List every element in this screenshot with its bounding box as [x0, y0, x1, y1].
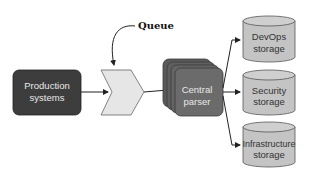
production-label-line1: Production — [24, 80, 69, 91]
infra-label-line1: Infrastructure — [242, 139, 295, 149]
edge-parser-devops — [223, 40, 240, 88]
devops-storage-node: DevOps storage — [243, 16, 295, 62]
production-systems-node: Production systems — [13, 70, 81, 115]
production-label-line2: systems — [30, 92, 65, 103]
devops-label-line1: DevOps — [252, 31, 287, 42]
infra-label-line2: storage — [253, 149, 285, 160]
architecture-diagram: Production systems Queue Central parser … — [0, 0, 311, 176]
edge-parser-infra — [223, 96, 240, 145]
security-storage-node: Security storage — [243, 70, 295, 115]
security-label-line1: Security — [252, 85, 287, 96]
queue-callout-arrow — [112, 26, 135, 65]
security-label-line2: storage — [253, 96, 285, 107]
parser-label-line2: parser — [184, 96, 211, 107]
queue-label: Queue — [138, 20, 174, 31]
parser-label-line1: Central — [182, 84, 213, 95]
devops-label-line2: storage — [253, 43, 285, 54]
infrastructure-storage-node: Infrastructure storage — [242, 122, 295, 167]
central-parser-node: Central parser — [163, 59, 223, 116]
